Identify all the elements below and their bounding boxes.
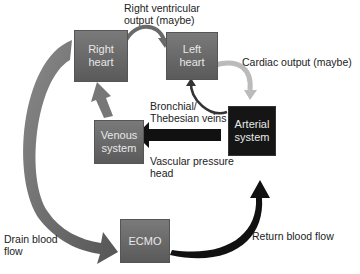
label-bronchial: Bronchial/ Thebesian veins xyxy=(150,100,226,124)
node-left-heart: Left heart xyxy=(166,32,218,80)
label-vascular-pressure: Vascular pressure head xyxy=(150,155,234,179)
return-arrow xyxy=(170,180,270,258)
rv-output-arrow xyxy=(125,27,164,42)
label-return-flow: Return blood flow xyxy=(252,230,334,242)
node-right-heart: Right heart xyxy=(74,30,128,82)
node-ecmo: ECMO xyxy=(120,219,170,263)
label-rv-output: Right ventricular output (maybe) xyxy=(124,2,200,26)
venous-up-arrow xyxy=(91,82,113,118)
label-drain-flow: Drain blood flow xyxy=(4,233,58,257)
label-cardiac-output: Cardiac output (maybe) xyxy=(242,56,352,68)
node-arterial-system: Arterial system xyxy=(228,106,276,156)
vascular-pressure-arrow xyxy=(136,122,221,148)
node-venous-system: Venous system xyxy=(94,120,144,164)
